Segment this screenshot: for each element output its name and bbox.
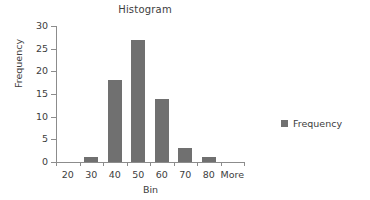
plot-area — [56, 26, 244, 162]
x-tick-label: 40 — [109, 169, 121, 180]
bar — [202, 157, 216, 162]
x-tick-label: 30 — [85, 169, 97, 180]
bar — [108, 80, 122, 162]
x-tick-mark — [103, 162, 104, 166]
x-tick-mark — [221, 162, 222, 166]
bar — [155, 99, 169, 162]
x-tick-mark — [197, 162, 198, 166]
chart-title: Histogram — [0, 4, 290, 15]
x-tick-mark — [244, 162, 245, 166]
bar — [131, 40, 145, 162]
y-axis-label: Frequency — [13, 14, 24, 114]
bar — [178, 148, 192, 162]
y-tick-label: 25 — [24, 44, 48, 54]
x-tick-label: More — [220, 169, 244, 180]
x-tick-label: 60 — [156, 169, 168, 180]
x-axis-label: Bin — [56, 184, 245, 195]
x-tick-mark — [127, 162, 128, 166]
x-tick-label: 80 — [203, 169, 215, 180]
y-tick-label: 5 — [24, 134, 48, 144]
chart-legend: Frequency — [281, 118, 342, 129]
x-tick-mark — [56, 162, 57, 166]
x-tick-mark — [150, 162, 151, 166]
x-tick-mark — [174, 162, 175, 166]
y-tick-label: 0 — [24, 157, 48, 167]
y-tick-label: 15 — [24, 89, 48, 99]
y-tick-label: 30 — [24, 21, 48, 31]
x-tick-mark — [80, 162, 81, 166]
y-tick-label: 10 — [24, 112, 48, 122]
legend-label-frequency: Frequency — [293, 118, 342, 129]
x-tick-label: 70 — [179, 169, 191, 180]
y-tick-label: 20 — [24, 66, 48, 76]
bar — [84, 157, 98, 162]
legend-swatch-frequency — [281, 120, 288, 127]
x-tick-label: 20 — [62, 169, 74, 180]
x-tick-label: 50 — [132, 169, 144, 180]
histogram-chart: Histogram Frequency 051015202530 2030405… — [0, 0, 370, 200]
